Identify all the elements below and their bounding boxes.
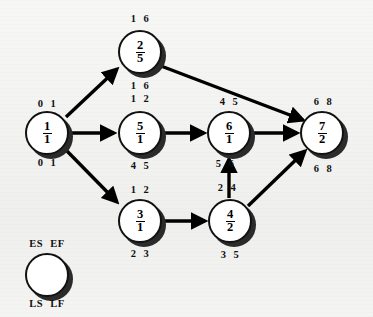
node-2-late-times: 16 bbox=[118, 80, 162, 91]
node-2[interactable]: 2 5 bbox=[118, 30, 162, 74]
node-activity: 1 bbox=[44, 121, 50, 133]
node-activity: 4 bbox=[227, 209, 233, 221]
node-fraction: 1 1 bbox=[43, 121, 52, 146]
node-disc: 1 1 bbox=[25, 111, 69, 155]
node-3-ls: 2 bbox=[131, 248, 137, 259]
node-5-ef: 2 bbox=[144, 93, 150, 104]
legend-node-disc bbox=[25, 253, 69, 297]
node-fraction: 4 2 bbox=[226, 209, 235, 234]
node-5-late-times: 45 bbox=[118, 160, 162, 171]
node-2-ef: 6 bbox=[144, 13, 150, 24]
node-5-ls: 4 bbox=[131, 160, 137, 171]
node-4-ls: 3 bbox=[221, 249, 227, 260]
node-disc: 5 1 bbox=[118, 111, 162, 155]
node-2-ls: 1 bbox=[131, 80, 137, 91]
node-7-early-times: 68 bbox=[300, 96, 346, 107]
node-7-ef: 8 bbox=[327, 96, 333, 107]
node-4-late-times: 35 bbox=[208, 249, 252, 260]
node-3-ef: 2 bbox=[144, 184, 150, 195]
node-disc: 2 5 bbox=[118, 30, 162, 74]
node-4[interactable]: 4 2 bbox=[208, 199, 252, 243]
node-disc: 6 1 bbox=[207, 111, 251, 155]
node-fraction: 5 1 bbox=[136, 121, 145, 146]
node-6-ls: 5 bbox=[216, 158, 222, 169]
node-4-early-times: 24 bbox=[205, 182, 249, 193]
legend-node bbox=[25, 253, 69, 297]
node-activity: 3 bbox=[137, 209, 143, 221]
node-5-early-times: 12 bbox=[118, 93, 162, 104]
node-3-late-times: 23 bbox=[118, 248, 162, 259]
node-4-es: 2 bbox=[218, 182, 224, 193]
legend-early-labels: ESEF bbox=[22, 238, 72, 249]
node-2-es: 1 bbox=[131, 13, 137, 24]
node-fraction: 6 1 bbox=[225, 121, 234, 146]
node-duration: 5 bbox=[136, 52, 145, 65]
node-activity: 2 bbox=[137, 40, 143, 52]
node-3[interactable]: 3 1 bbox=[118, 199, 162, 243]
node-fraction: 2 5 bbox=[136, 40, 145, 65]
node-6[interactable]: 6 1 bbox=[207, 111, 251, 155]
node-6-late-times: 56 bbox=[203, 158, 247, 169]
node-4-lf: 5 bbox=[234, 249, 240, 260]
legend-ef-label: EF bbox=[50, 238, 64, 249]
edge-1-to-3 bbox=[66, 150, 117, 202]
node-duration: 1 bbox=[43, 133, 52, 146]
node-disc: 4 2 bbox=[208, 199, 252, 243]
node-duration: 1 bbox=[136, 133, 145, 146]
legend-ls-label: LS bbox=[29, 298, 43, 309]
node-5[interactable]: 5 1 bbox=[118, 111, 162, 155]
node-duration: 1 bbox=[225, 133, 234, 146]
node-1-es: 0 bbox=[38, 98, 44, 109]
edge-1-to-2 bbox=[66, 69, 117, 117]
node-activity: 6 bbox=[226, 121, 232, 133]
node-2-early-times: 16 bbox=[118, 13, 162, 24]
node-duration: 1 bbox=[136, 221, 145, 234]
node-disc: 7 2 bbox=[300, 111, 344, 155]
node-6-lf: 6 bbox=[229, 158, 235, 169]
node-duration: 2 bbox=[226, 221, 235, 234]
node-3-lf: 3 bbox=[144, 248, 150, 259]
node-2-lf: 6 bbox=[144, 80, 150, 91]
node-7[interactable]: 7 2 bbox=[300, 111, 344, 155]
node-7-ls: 6 bbox=[314, 163, 320, 174]
node-1-ef: 1 bbox=[51, 98, 57, 109]
node-duration: 2 bbox=[318, 133, 327, 146]
legend-es-label: ES bbox=[29, 238, 43, 249]
node-6-early-times: 45 bbox=[207, 96, 251, 107]
legend-late-labels: LSLF bbox=[22, 298, 72, 309]
diagram-canvas: 1 1 01 01 2 5 16 16 5 1 bbox=[0, 0, 373, 317]
legend-lf-label: LF bbox=[50, 298, 64, 309]
node-1[interactable]: 1 1 bbox=[25, 111, 69, 155]
node-3-es: 1 bbox=[131, 184, 137, 195]
node-fraction: 3 1 bbox=[136, 209, 145, 234]
node-4-ef: 4 bbox=[231, 182, 237, 193]
edge-4-to-7 bbox=[248, 151, 305, 206]
node-disc: 3 1 bbox=[118, 199, 162, 243]
node-activity: 5 bbox=[137, 121, 143, 133]
node-6-ef: 5 bbox=[233, 96, 239, 107]
node-activity: 7 bbox=[319, 121, 325, 133]
node-1-ls: 0 bbox=[38, 157, 44, 168]
node-7-lf: 8 bbox=[327, 163, 333, 174]
node-1-late-times: 01 bbox=[25, 157, 69, 168]
node-fraction: 7 2 bbox=[318, 121, 327, 146]
node-7-es: 6 bbox=[314, 96, 320, 107]
node-6-es: 4 bbox=[220, 96, 226, 107]
node-5-lf: 5 bbox=[144, 160, 150, 171]
node-1-early-times: 01 bbox=[25, 98, 69, 109]
node-3-early-times: 12 bbox=[118, 184, 162, 195]
node-5-es: 1 bbox=[131, 93, 137, 104]
node-1-lf: 1 bbox=[51, 157, 57, 168]
node-7-late-times: 68 bbox=[300, 163, 346, 174]
